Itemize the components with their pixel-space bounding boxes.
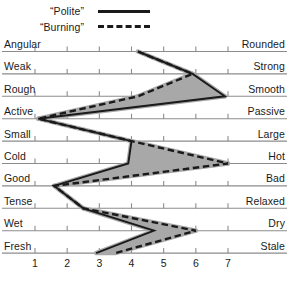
left-label-cold: Cold bbox=[4, 150, 26, 162]
tick-label-4: 4 bbox=[122, 257, 142, 269]
right-label-bad: Bad bbox=[266, 172, 285, 184]
right-label-large: Large bbox=[258, 128, 285, 140]
right-label-passive: Passive bbox=[248, 105, 285, 117]
left-label-rough: Rough bbox=[4, 83, 35, 95]
left-label-active: Active bbox=[4, 105, 33, 117]
tick-label-2: 2 bbox=[57, 257, 77, 269]
left-label-fresh: Fresh bbox=[4, 240, 31, 252]
left-label-good: Good bbox=[4, 172, 30, 184]
left-label-wet: Wet bbox=[4, 217, 23, 229]
left-label-small: Small bbox=[4, 128, 31, 140]
tick-label-7: 7 bbox=[218, 257, 238, 269]
semantic-differential-chart: “Polite” “Burning” AngularRoundedWeakStr… bbox=[0, 0, 289, 286]
tick-label-6: 6 bbox=[186, 257, 206, 269]
band-segment bbox=[54, 164, 228, 186]
right-label-rounded: Rounded bbox=[242, 38, 285, 50]
left-label-weak: Weak bbox=[4, 60, 31, 72]
tick-label-5: 5 bbox=[154, 257, 174, 269]
left-label-tense: Tense bbox=[4, 195, 33, 207]
right-label-relaxed: Relaxed bbox=[246, 195, 285, 207]
right-label-stale: Stale bbox=[261, 240, 285, 252]
tick-label-1: 1 bbox=[25, 257, 45, 269]
right-label-smooth: Smooth bbox=[248, 83, 285, 95]
right-label-dry: Dry bbox=[268, 217, 285, 229]
right-label-hot: Hot bbox=[268, 150, 285, 162]
right-label-strong: Strong bbox=[253, 60, 285, 72]
series-band bbox=[38, 52, 228, 254]
tick-label-3: 3 bbox=[89, 257, 109, 269]
band-segment bbox=[83, 208, 196, 230]
left-label-angular: Angular bbox=[4, 38, 41, 50]
